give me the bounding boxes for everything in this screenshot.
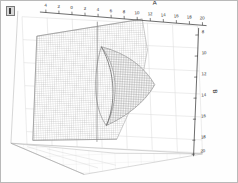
svg-text:10: 10 [201, 50, 207, 55]
svg-text:20: 20 [200, 15, 206, 20]
svg-text:18: 18 [201, 134, 207, 139]
svg-text:4: 4 [44, 3, 47, 8]
svg-text:6: 6 [110, 8, 113, 13]
svg-text:0: 0 [70, 5, 73, 10]
figure-frame: 4 2 0 2 4 6 8 10 12 14 16 18 20 A [0, 0, 238, 183]
surface-plot-3d[interactable]: 4 2 0 2 4 6 8 10 12 14 16 18 20 A [0, 0, 238, 183]
svg-text:10: 10 [134, 10, 140, 15]
plot-canvas: 4 2 0 2 4 6 8 10 12 14 16 18 20 A [0, 0, 238, 183]
svg-text:18: 18 [187, 14, 193, 19]
axis-b-title: B [212, 89, 218, 93]
svg-text:4: 4 [97, 7, 100, 12]
svg-text:8: 8 [202, 29, 205, 34]
svg-text:14: 14 [201, 92, 207, 97]
svg-text:12: 12 [201, 71, 207, 76]
svg-text:2: 2 [57, 4, 60, 9]
svg-text:20: 20 [200, 148, 206, 153]
svg-text:12: 12 [148, 11, 154, 16]
svg-text:16: 16 [174, 13, 180, 18]
left-frame-edge [6, 11, 23, 143]
svg-text:2: 2 [83, 6, 86, 11]
svg-text:8: 8 [123, 9, 126, 14]
svg-text:14: 14 [161, 12, 167, 17]
svg-text:16: 16 [201, 113, 207, 118]
axis-a-title: A [153, 0, 157, 6]
